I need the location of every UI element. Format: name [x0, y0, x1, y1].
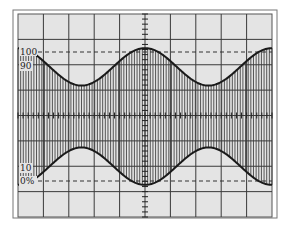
oscilloscope-display: 100 90 10 0%	[0, 0, 284, 235]
label-100: 100	[20, 47, 37, 57]
label-90: 90	[20, 61, 32, 71]
label-10: 10	[20, 163, 32, 173]
label-0-percent: 0%	[20, 176, 35, 186]
